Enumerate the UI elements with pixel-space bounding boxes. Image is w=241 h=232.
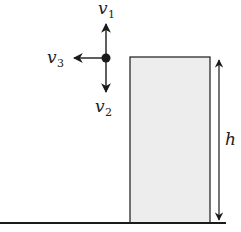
svg-text:v: v: [98, 0, 108, 18]
v3-label: v 3: [47, 47, 64, 70]
v1-label: v 1: [98, 0, 115, 21]
v2-label: v 2: [95, 96, 112, 119]
particle-dot: [102, 54, 111, 63]
svg-text:v: v: [47, 47, 57, 67]
building: [130, 57, 210, 223]
projectile-diagram: h v 1 v 2 v 3: [0, 0, 241, 232]
svg-text:v: v: [95, 96, 105, 116]
svg-text:3: 3: [57, 57, 64, 70]
height-label: h: [225, 129, 236, 149]
svg-text:2: 2: [105, 106, 112, 119]
svg-text:1: 1: [108, 8, 115, 21]
